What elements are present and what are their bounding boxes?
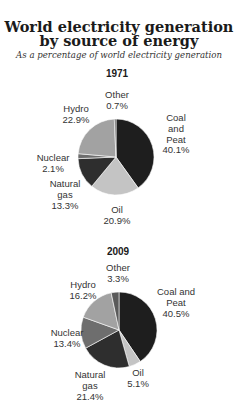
- slice-label-line: Natural: [50, 178, 81, 189]
- slice-label-line: gas: [82, 380, 98, 391]
- slice-label-line: Other: [106, 262, 130, 273]
- slice-label-line: 21.4%: [77, 391, 104, 402]
- slice-label-line: gas: [57, 189, 73, 200]
- slice-label-line: 3.3%: [107, 273, 129, 284]
- slice-label-line: 2.1%: [42, 163, 64, 174]
- slice-label-oil: Oil20.9%: [104, 204, 131, 226]
- slice-label-line: 40.5%: [163, 308, 190, 319]
- pie-1971: [78, 119, 154, 195]
- slice-label-line: 40.1%: [163, 144, 190, 155]
- slice-label-line: Nuclear: [37, 152, 70, 163]
- slice-label-line: Oil: [132, 367, 144, 378]
- slice-label-line: 5.1%: [127, 378, 149, 389]
- slice-label-line: Nuclear: [51, 327, 84, 338]
- slice-label-line: 22.9%: [63, 114, 90, 125]
- slice-label-hydro: Hydro22.9%: [63, 103, 90, 125]
- slice-label-line: 13.4%: [54, 338, 81, 349]
- slice-label-other: Other3.3%: [106, 262, 130, 284]
- slice-label-nuclear: Nuclear13.4%: [51, 327, 84, 349]
- slice-label-natural-gas: Naturalgas13.3%: [50, 178, 81, 211]
- slice-label-line: and: [168, 123, 184, 134]
- slice-label-line: 16.2%: [70, 290, 97, 301]
- slice-label-line: 13.3%: [52, 200, 79, 211]
- pie-title-2009: 2009: [107, 246, 130, 257]
- pie-2009: [81, 292, 157, 368]
- pie-charts: 1971 CoalandPeat40.1%Oil20.9%Naturalgas1…: [0, 0, 238, 409]
- slice-label-line: Hydro: [70, 279, 95, 290]
- slice-label-line: 0.7%: [106, 100, 128, 111]
- slice-label-line: Hydro: [63, 103, 88, 114]
- slice-label-line: 20.9%: [104, 215, 131, 226]
- slice-label-coal-and-peat: Coal andPeat40.5%: [157, 286, 195, 319]
- slice-label-natural-gas: Naturalgas21.4%: [75, 369, 106, 402]
- pie-title-1971: 1971: [106, 68, 129, 79]
- slice-label-nuclear: Nuclear2.1%: [37, 152, 70, 174]
- slice-label-hydro: Hydro16.2%: [70, 279, 97, 301]
- slice-label-line: Coal: [166, 112, 186, 123]
- slice-label-line: Peat: [166, 134, 186, 145]
- slice-label-coal-and-peat: CoalandPeat40.1%: [163, 112, 190, 155]
- slice-label-line: Natural: [75, 369, 106, 380]
- slice-label-line: Coal and: [157, 286, 195, 297]
- slice-label-line: Other: [105, 89, 129, 100]
- slice-label-line: Oil: [111, 204, 123, 215]
- slice-label-other: Other0.7%: [105, 89, 129, 111]
- slice-label-line: Peat: [166, 297, 186, 308]
- slice-label-oil: Oil5.1%: [127, 367, 149, 389]
